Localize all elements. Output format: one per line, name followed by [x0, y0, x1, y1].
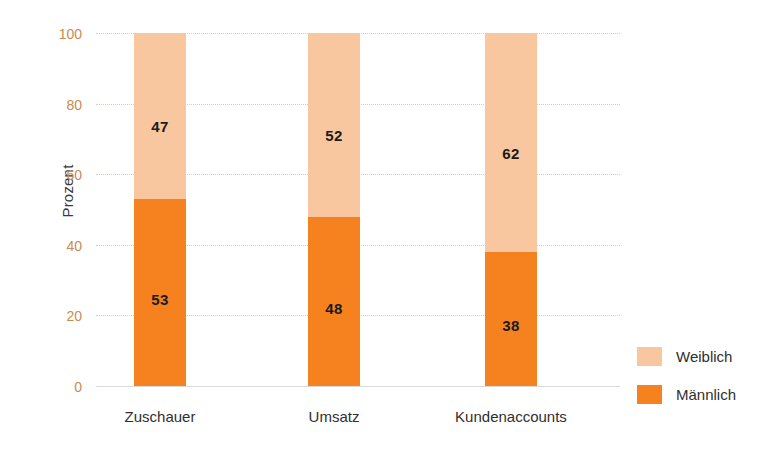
legend-swatch-maennlich-icon [637, 385, 662, 404]
y-axis-title: Prozent [59, 131, 81, 251]
legend-swatch-weiblich-icon [637, 347, 662, 366]
bar-segment-maennlich[interactable]: 48 [308, 217, 360, 386]
legend-item-maennlich[interactable]: Männlich [637, 375, 736, 413]
bar-segment-weiblich[interactable]: 62 [485, 33, 537, 252]
bar-group-kundenaccounts[interactable]: 62 38 Kundenaccounts [485, 33, 537, 386]
y-tick-label-40: 40 [42, 238, 82, 254]
y-tick-label-100: 100 [42, 26, 82, 42]
bar-segment-weiblich[interactable]: 52 [308, 33, 360, 217]
plot-area: 100 80 60 40 20 0 47 53 Zusc [96, 33, 620, 386]
bar-segment-weiblich[interactable]: 47 [134, 33, 186, 199]
y-tick-label-20: 20 [42, 308, 82, 324]
legend-label-maennlich: Männlich [676, 386, 736, 403]
bar-segment-maennlich[interactable]: 53 [134, 199, 186, 386]
legend-item-weiblich[interactable]: Weiblich [637, 337, 736, 375]
bar-segment-maennlich[interactable]: 38 [485, 252, 537, 386]
x-tick-label-zuschauer: Zuschauer [125, 408, 196, 425]
legend-label-weiblich: Weiblich [676, 348, 732, 365]
legend: Weiblich Männlich [637, 337, 736, 413]
stacked-bar-chart: Prozent 100 80 60 40 20 0 47 [0, 0, 778, 460]
x-tick-label-kundenaccounts: Kundenaccounts [455, 408, 567, 425]
y-tick-label-60: 60 [42, 167, 82, 183]
bar-value-label: 52 [325, 127, 342, 144]
bar-group-zuschauer[interactable]: 47 53 Zuschauer [134, 33, 186, 386]
bar-stack: 52 48 [308, 33, 360, 386]
bar-value-label: 62 [502, 145, 519, 162]
bar-value-label: 53 [151, 291, 168, 308]
bar-value-label: 48 [325, 300, 342, 317]
bar-value-label: 38 [502, 317, 519, 334]
y-tick-label-80: 80 [42, 97, 82, 113]
bar-value-label: 47 [151, 118, 168, 135]
x-tick-label-umsatz: Umsatz [309, 408, 360, 425]
y-tick-label-0: 0 [42, 379, 82, 395]
bar-stack: 62 38 [485, 33, 537, 386]
axis-baseline-0: 0 [96, 386, 620, 387]
bar-group-umsatz[interactable]: 52 48 Umsatz [308, 33, 360, 386]
bar-stack: 47 53 [134, 33, 186, 386]
